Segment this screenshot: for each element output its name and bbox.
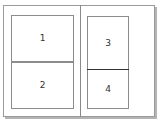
panel-1: 1 — [11, 15, 74, 62]
panel-3: 3 — [87, 16, 129, 70]
panel-3-label: 3 — [105, 39, 111, 48]
page-spine-divider — [80, 5, 81, 117]
panel-2-label: 2 — [40, 81, 46, 90]
panel-2: 2 — [11, 62, 74, 109]
panel-1-label: 1 — [40, 34, 46, 43]
panel-3-4-divider — [87, 69, 129, 70]
panel-4-label: 4 — [105, 85, 111, 94]
panel-4: 4 — [87, 69, 129, 109]
